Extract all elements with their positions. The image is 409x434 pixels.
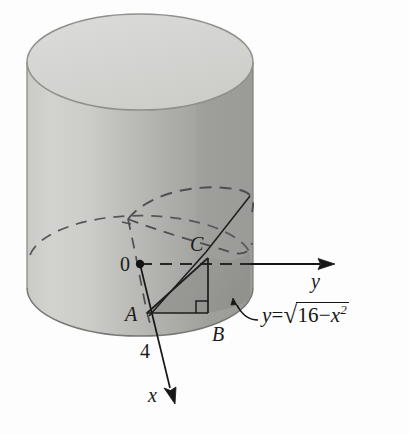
cylinder-diagram: 0 A B C 4 y x xyxy=(0,0,409,434)
equation-radicand: 16−x2 xyxy=(296,302,349,327)
equation-exponent-2: 2 xyxy=(340,302,347,317)
cylinder-top-face xyxy=(27,14,253,110)
x-axis-arrowhead xyxy=(164,387,176,404)
radius-measure-label: 4 xyxy=(140,340,150,362)
y-axis-label: y xyxy=(309,270,320,293)
equation-equals: = xyxy=(272,303,284,327)
equation-annotation: y=√16−x2 xyxy=(262,300,349,328)
equation-minus-sign: − xyxy=(319,303,331,327)
equation-variable-y: y xyxy=(262,303,272,327)
y-axis-arrowhead xyxy=(318,259,335,270)
point-label-b: B xyxy=(212,323,224,345)
origin-point xyxy=(136,260,144,268)
equation-constant-16: 16 xyxy=(297,303,318,327)
point-label-a: A xyxy=(123,303,138,325)
radical-sign-icon: √ xyxy=(284,301,298,328)
point-label-c: C xyxy=(190,233,204,255)
figure-container: 0 A B C 4 y x y=√16−x2 xyxy=(0,0,409,434)
x-axis-label: x xyxy=(147,384,157,406)
equation-variable-x: x xyxy=(331,303,341,327)
origin-label: 0 xyxy=(120,253,130,275)
